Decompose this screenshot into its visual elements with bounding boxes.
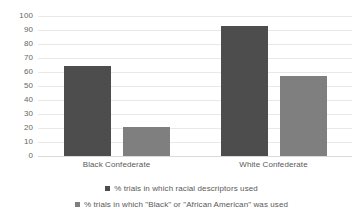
plot-area: 0102030405060708090100	[38, 16, 352, 156]
legend-label: % trials in which racial descriptors use…	[114, 184, 258, 193]
legend-item[interactable]: % trials in which racial descriptors use…	[0, 180, 363, 196]
x-axis-category-label: White Confederate	[239, 160, 307, 169]
bar-chart: 0102030405060708090100 Black Confederate…	[0, 0, 363, 218]
y-axis-tick-label: 80	[24, 40, 33, 48]
y-axis-tick-label: 0	[28, 152, 33, 160]
x-axis-category-label: Black Confederate	[83, 160, 151, 169]
bar	[280, 76, 327, 156]
bar	[221, 26, 268, 156]
y-axis-tick-label: 60	[24, 68, 33, 76]
y-axis-tick-label: 50	[24, 82, 33, 90]
y-axis-tick-label: 20	[24, 124, 33, 132]
y-axis-tick-label: 100	[19, 12, 33, 20]
chart-legend: % trials in which racial descriptors use…	[0, 180, 363, 212]
bar	[123, 127, 170, 156]
y-axis-tick-label: 30	[24, 110, 33, 118]
y-axis-tick-label: 40	[24, 96, 33, 104]
legend-swatch-icon	[105, 186, 110, 191]
y-axis-tick-label: 70	[24, 54, 33, 62]
legend-swatch-icon	[75, 202, 80, 207]
bar-series-group	[38, 16, 352, 156]
bar	[64, 66, 111, 156]
gridline-0: 0	[38, 156, 352, 157]
legend-item[interactable]: % trials in which "Black" or "African Am…	[0, 196, 363, 212]
y-axis-tick-label: 90	[24, 26, 33, 34]
y-axis-tick-label: 10	[24, 138, 33, 146]
legend-label: % trials in which "Black" or "African Am…	[84, 200, 288, 209]
